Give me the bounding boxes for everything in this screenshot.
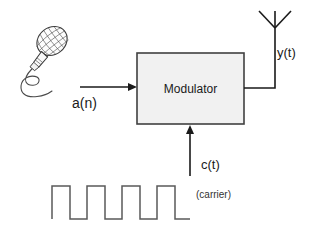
carrier-note-label: (carrier) — [196, 190, 231, 200]
input-arrow — [80, 83, 137, 91]
carrier-arrow — [186, 125, 194, 176]
output-signal-label: y(t) — [277, 46, 296, 59]
input-signal-label: a(n) — [72, 96, 97, 110]
modulator-label: Modulator — [137, 53, 244, 124]
carrier-signal-label: c(t) — [201, 158, 220, 171]
square-wave — [52, 186, 190, 219]
diagram-canvas: a(n) Modulator c(t) y(t) (carrier) — [0, 0, 316, 234]
output-line — [244, 30, 275, 88]
microphone-icon — [21, 21, 73, 97]
antenna-icon — [259, 11, 291, 30]
